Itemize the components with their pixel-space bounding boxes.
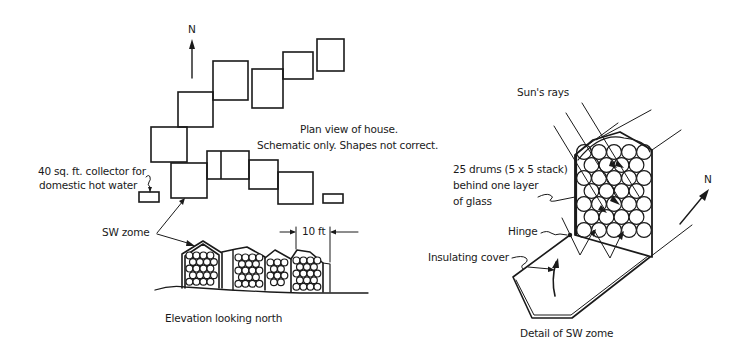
drum [622, 197, 637, 212]
drum [637, 145, 652, 160]
drum [256, 280, 263, 287]
drum [278, 279, 285, 286]
detail-view [512, 103, 709, 318]
drum [311, 277, 318, 284]
north-arrow-detail-icon [680, 189, 709, 224]
drum [200, 265, 207, 272]
plan-view [139, 39, 344, 233]
drum [235, 254, 242, 261]
sw-zome-arrowhead-up-icon [179, 198, 185, 205]
collector-label-line2: domestic hot water [39, 180, 137, 191]
drum [246, 261, 253, 268]
drum [186, 252, 193, 259]
plan-zome-box [249, 160, 278, 189]
drum [253, 274, 260, 281]
drum [304, 277, 311, 284]
solar-house-diagram: N Plan view of house. Schematic only. Sh… [0, 0, 746, 355]
sw-zome-arrowhead-right-icon [186, 240, 195, 246]
drum [599, 210, 614, 225]
drum [190, 259, 197, 266]
drum [200, 252, 207, 259]
drum [622, 145, 637, 160]
drum [607, 171, 622, 186]
drum [311, 264, 318, 271]
plan-zome-box [278, 172, 313, 204]
drum [204, 259, 211, 266]
drum [584, 158, 599, 173]
plan-zome-box [283, 52, 313, 79]
drum [281, 272, 288, 279]
drum [242, 280, 249, 287]
detail-caption: Detail of SW zome [520, 328, 613, 339]
plan-zome-box [317, 39, 344, 71]
drum [190, 272, 197, 279]
drum [207, 252, 214, 259]
drums-label-line2: behind one layer [453, 180, 538, 191]
drum [235, 280, 242, 287]
drum [614, 210, 629, 225]
cover-leader [512, 257, 527, 270]
drum [267, 259, 274, 266]
drum [293, 257, 300, 264]
drum [253, 261, 260, 268]
hinge-icon [568, 233, 572, 237]
drum [242, 267, 249, 274]
drum [211, 272, 218, 279]
plan-zome-box [151, 127, 187, 162]
north-arrow-icon [189, 39, 195, 78]
hinge-label: Hinge [508, 226, 538, 237]
insulating-cover-label: Insulating cover [428, 252, 509, 263]
drum [314, 270, 321, 277]
drum [271, 279, 278, 286]
drum [307, 257, 314, 264]
drum [207, 278, 214, 285]
drum [186, 278, 193, 285]
drum [267, 272, 274, 279]
drums-label-line3: of glass [453, 196, 492, 207]
drum [622, 223, 637, 238]
drum [629, 210, 644, 225]
drum [314, 257, 321, 264]
drum [307, 283, 314, 290]
drum [629, 184, 644, 199]
drum [193, 265, 200, 272]
drum [293, 270, 300, 277]
drum [200, 278, 207, 285]
drum [249, 280, 256, 287]
plan-zome-box [171, 163, 207, 198]
drum [239, 261, 246, 268]
detail-drums [577, 137, 652, 237]
drum [637, 197, 652, 212]
drums-label-line1: 25 drums (5 x 5 stack) [453, 164, 568, 175]
plan-zome-box [213, 61, 248, 100]
ground-line [155, 286, 368, 293]
diagram-canvas [0, 0, 746, 355]
drum [297, 277, 304, 284]
drums-leader [538, 194, 575, 201]
drum [246, 274, 253, 281]
cover-pointer [528, 267, 550, 269]
drum [300, 283, 307, 290]
detail-north-label: N [704, 174, 712, 185]
sw-zome-label: SW zome [102, 227, 150, 238]
drum [297, 264, 304, 271]
plan-north-label: N [188, 24, 196, 35]
drum [281, 259, 288, 266]
drum [256, 254, 263, 261]
sw-zome-leader-up [157, 201, 183, 233]
drum [300, 270, 307, 277]
drum [274, 272, 281, 279]
drum [293, 283, 300, 290]
drum [622, 171, 637, 186]
drum [584, 210, 599, 225]
drum [592, 171, 607, 186]
drum [242, 254, 249, 261]
plan-zome-boxes [139, 39, 344, 204]
drum [629, 158, 644, 173]
drum [256, 267, 263, 274]
drum [207, 265, 214, 272]
drum [278, 266, 285, 273]
plan-collector-rect [323, 194, 343, 203]
drum [577, 197, 592, 212]
drum [637, 171, 652, 186]
